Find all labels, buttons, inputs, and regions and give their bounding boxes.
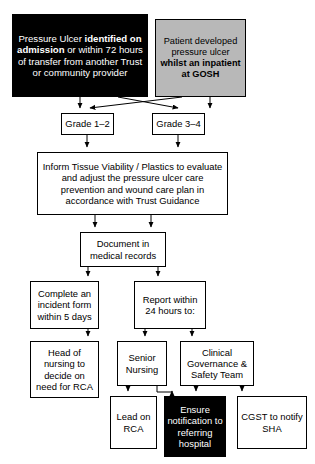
node-document-in-medical-records-label: Document in medical records bbox=[81, 238, 165, 260]
node-report-within-24-hours-label: Report within 24 hours to: bbox=[135, 294, 205, 316]
node-inform-tissue-viability: Inform Tissue Viability / Plastics to ev… bbox=[37, 152, 228, 215]
node-grade-3-4-label: Grade 3–4 bbox=[153, 118, 204, 129]
node-clinical-governance-safety-team: Clinical Governance & Safety Team bbox=[180, 341, 254, 386]
node-head-of-nursing-rca-label: Head of nursing to decide on need for RC… bbox=[31, 347, 98, 391]
node-identified-on-admission: Pressure Ulcer identified on admission o… bbox=[12, 14, 148, 97]
node-developed-at-gosh-segment-0: Patient developed pressure ulcer bbox=[164, 36, 238, 57]
node-cgst-notify-sha-label: CGST to notify SHA bbox=[238, 411, 306, 433]
node-ensure-notification-label: Ensure notification to referring hospita… bbox=[165, 404, 225, 448]
node-grade-3-4: Grade 3–4 bbox=[152, 113, 205, 135]
node-complete-incident-form: Complete an incident form within 5 days bbox=[30, 281, 99, 329]
node-ensure-notification: Ensure notification to referring hospita… bbox=[164, 396, 226, 457]
node-document-in-medical-records: Document in medical records bbox=[80, 232, 166, 267]
edge-identified-to-grade-3-4 bbox=[118, 97, 178, 108]
node-developed-at-gosh-label: Patient developed pressure ulcer whilst … bbox=[156, 36, 245, 79]
node-cgst-notify-sha: CGST to notify SHA bbox=[237, 396, 307, 449]
flowchart-canvas: Pressure Ulcer identified on admission o… bbox=[0, 0, 315, 464]
node-head-of-nursing-rca: Head of nursing to decide on need for RC… bbox=[30, 341, 99, 398]
node-lead-on-rca: Lead on RCA bbox=[110, 396, 157, 449]
node-developed-at-gosh: Patient developed pressure ulcer whilst … bbox=[155, 19, 246, 97]
node-grade-1-2: Grade 1–2 bbox=[61, 113, 114, 135]
node-senior-nursing-label: Senior Nursing bbox=[118, 352, 166, 374]
edge-gosh-to-grade-1-2 bbox=[90, 97, 182, 108]
node-identified-on-admission-label: Pressure Ulcer identified on admission o… bbox=[13, 33, 147, 78]
node-report-within-24-hours: Report within 24 hours to: bbox=[134, 281, 206, 329]
edge-senior-nursing-to-ensure bbox=[157, 386, 172, 392]
node-senior-nursing: Senior Nursing bbox=[117, 341, 167, 386]
node-clinical-governance-safety-team-label: Clinical Governance & Safety Team bbox=[181, 347, 253, 380]
node-developed-at-gosh-segment-1: whilst an inpatient at GOSH bbox=[160, 58, 240, 79]
node-complete-incident-form-label: Complete an incident form within 5 days bbox=[31, 288, 98, 321]
node-lead-on-rca-label: Lead on RCA bbox=[111, 411, 156, 433]
node-identified-on-admission-segment-0: Pressure Ulcer bbox=[18, 33, 84, 44]
node-inform-tissue-viability-label: Inform Tissue Viability / Plastics to ev… bbox=[38, 161, 227, 205]
node-grade-1-2-label: Grade 1–2 bbox=[62, 118, 113, 129]
